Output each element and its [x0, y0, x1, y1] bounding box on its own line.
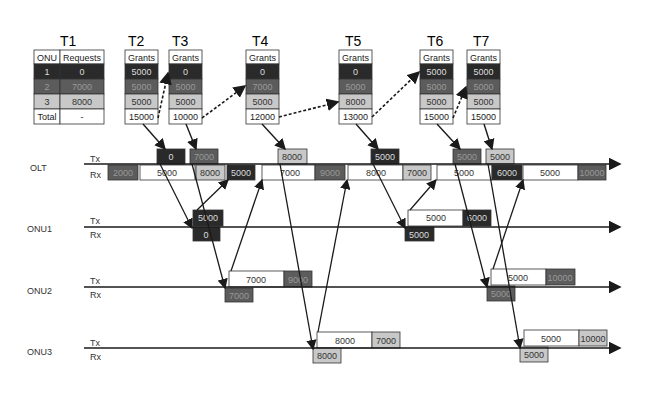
onu1-rx-block: 0 [203, 230, 208, 240]
label-t4: T4 [252, 33, 269, 49]
onu3-tx-block: 8000 [335, 336, 355, 346]
grant-onu1: 5000 [473, 67, 493, 77]
grant-onu3: 8000 [345, 97, 365, 107]
onu3-rx-block: 8000 [317, 351, 337, 361]
grant-onu2: 5000 [175, 82, 195, 92]
node-onu3-label: ONU3 [27, 347, 52, 357]
grant-header: Grants [342, 53, 370, 63]
grant-onu3: 5000 [426, 97, 446, 107]
grant-onu2: 7000 [252, 82, 272, 92]
request-value-total: - [81, 112, 84, 122]
grant-header: Grants [172, 53, 200, 63]
grant-onu3: 5000 [131, 97, 151, 107]
olt-rx-block: 9000 [320, 168, 340, 178]
label-t7: T7 [473, 33, 490, 49]
grant-header: Grants [470, 53, 498, 63]
grant-to-tx-arrows [143, 124, 492, 149]
olt-rx-label: Rx [90, 170, 101, 180]
node-olt-label: OLT [30, 163, 47, 173]
time-axes [84, 164, 620, 348]
grant-header: Grants [128, 53, 156, 63]
grant-onu2: 5000 [345, 82, 365, 92]
olt-rx-block: 5000 [157, 168, 177, 178]
request-onu-3: 3 [44, 97, 49, 107]
onu3-tx-block: 7000 [376, 336, 396, 346]
node-labels: OLT ONU1 ONU2 ONU3 Tx Rx Tx Rx Tx Rx Tx … [27, 154, 101, 362]
grant-onu1: 5000 [131, 67, 151, 77]
olt-tx-block: 0 [168, 152, 173, 162]
olt-tx-block: 7000 [194, 152, 214, 162]
onu3-tx-block: 5000 [541, 334, 561, 344]
node-onu2-label: ONU2 [27, 286, 52, 296]
onu1-rx-label: Rx [90, 230, 101, 240]
label-t1: T1 [60, 33, 77, 49]
onu3-rx-block: 5000 [524, 350, 544, 360]
propagation-arrows [160, 164, 523, 349]
onu2-tx-block: 10000 [547, 273, 572, 283]
grant-total: 12000 [250, 112, 275, 122]
onu2-rx-block: 7000 [229, 291, 249, 301]
dba-timing-diagram: T1 T2 T3 T4 T5 T6 T7 ONU Requests 1 0 2 … [0, 0, 655, 393]
olt-rx-block: 8000 [200, 168, 220, 178]
time-labels: T1 T2 T3 T4 T5 T6 T7 [60, 33, 490, 49]
request-onu-total: Total [37, 112, 56, 122]
grant-onu2: 5000 [426, 82, 446, 92]
grant-total: 15000 [129, 112, 154, 122]
grant-table-t7: Grants 5000 5000 5000 15000 [467, 50, 500, 124]
olt-tx-block: 8000 [282, 152, 302, 162]
grant-total: 15000 [424, 112, 449, 122]
onu3-blocks [313, 330, 607, 363]
grant-onu2: 5000 [473, 82, 493, 92]
onu1-tx-block: 5000 [198, 213, 218, 223]
label-t3: T3 [172, 33, 189, 49]
grant-total: 10000 [173, 112, 198, 122]
onu2-tx-block: 5000 [508, 273, 528, 283]
onu3-tx-label: Tx [90, 338, 100, 348]
onu1-rx-block: 5000 [409, 230, 429, 240]
olt-tx-block: 5000 [457, 152, 477, 162]
grant-onu3: 5000 [473, 97, 493, 107]
grant-total: 13000 [343, 112, 368, 122]
olt-rx-blocks [108, 165, 606, 180]
request-header-requests: Requests [63, 53, 102, 63]
olt-rx-block: 6000 [497, 168, 517, 178]
request-onu-1: 1 [44, 67, 49, 77]
request-value-2: 7000 [72, 82, 92, 92]
onu2-tx-label: Tx [90, 276, 100, 286]
olt-rx-block: 5000 [540, 168, 560, 178]
grant-table-t2: Grants 5000 5000 5000 15000 [125, 50, 158, 124]
grant-header: Grants [249, 53, 277, 63]
grant-table-t3: Grants 0 5000 5000 10000 [169, 50, 202, 124]
grant-table-t6: Grants 5000 5000 5000 15000 [420, 50, 453, 124]
grant-onu1: 0 [183, 67, 188, 77]
onu2-rx-block: 5000 [491, 289, 511, 299]
label-t5: T5 [345, 33, 362, 49]
request-onu-2: 2 [44, 82, 49, 92]
onu1-tx-label: Tx [90, 216, 100, 226]
onu3-rx-label: Rx [90, 352, 101, 362]
olt-rx-block: 2000 [113, 168, 133, 178]
request-value-1: 0 [79, 67, 84, 77]
olt-rx-block: 7000 [407, 168, 427, 178]
onu2-tx-block: 9000 [288, 275, 308, 285]
request-value-3: 8000 [72, 97, 92, 107]
node-onu1-label: ONU1 [27, 224, 52, 234]
request-header-onu: ONU [37, 53, 57, 63]
grant-onu3: 5000 [175, 97, 195, 107]
grant-header: Grants [423, 53, 451, 63]
grant-onu3: 5000 [252, 97, 272, 107]
grant-onu2: 5000 [131, 82, 151, 92]
grant-onu1: 0 [353, 67, 358, 77]
label-t2: T2 [128, 33, 145, 49]
olt-tx-block: 5000 [490, 152, 510, 162]
onu2-rx-label: Rx [90, 290, 101, 300]
grant-table-t5: Grants 0 5000 8000 13000 [339, 50, 372, 124]
olt-tx-block: 5000 [375, 152, 395, 162]
grant-onu1: 5000 [426, 67, 446, 77]
olt-rx-block: 7000 [280, 168, 300, 178]
onu3-tx-block: 10000 [580, 334, 605, 344]
label-t6: T6 [427, 33, 444, 49]
olt-rx-block: 5000 [231, 168, 251, 178]
onu2-tx-block: 7000 [246, 275, 266, 285]
grant-onu1: 0 [260, 67, 265, 77]
